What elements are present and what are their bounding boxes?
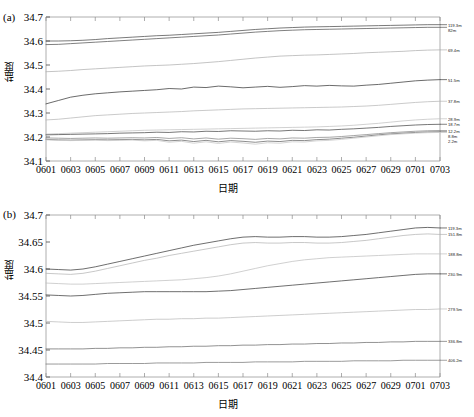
y-tick-label: 34.6 — [24, 263, 43, 275]
x-tick-label: 0615 — [208, 164, 228, 175]
x-tick-label: 0703 — [430, 380, 450, 391]
series-line — [46, 360, 440, 364]
series-depth-label: 2.2m — [448, 138, 457, 143]
y-tick-label: 34.55 — [18, 290, 43, 302]
series-depth-label: 151.8m — [448, 232, 462, 237]
x-tick-label: 0615 — [208, 380, 228, 391]
y-tick-label: 34.6 — [24, 35, 43, 47]
series-depth-label: 230.9m — [448, 271, 462, 276]
x-tick-label: 0609 — [135, 380, 155, 391]
x-tick-label: 0629 — [381, 164, 401, 175]
series-depth-label: 188.8m — [448, 251, 462, 256]
x-tick-label: 0703 — [430, 164, 450, 175]
series-line — [46, 80, 440, 104]
axis-frame — [46, 215, 440, 377]
series-depth-label: 119.3m — [448, 225, 462, 230]
panel-a-ylabel: 盐度 — [2, 62, 17, 82]
series-line — [46, 309, 440, 323]
series-depth-label: 406.2m — [448, 358, 462, 363]
figure-root: (a) 盐度 34.134.234.334.434.534.634.7 0601… — [0, 0, 474, 417]
x-tick-label: 0603 — [61, 164, 81, 175]
x-tick-label: 0605 — [85, 380, 105, 391]
x-tick-label: 0601 — [36, 164, 56, 175]
series-line — [46, 101, 440, 120]
series-depth-label: 28.9m — [448, 116, 460, 121]
x-tick-label: 0609 — [135, 164, 155, 175]
series-depth-label: 82m — [448, 27, 456, 32]
x-tick-label: 0623 — [307, 164, 327, 175]
y-tick-label: 34.2 — [24, 131, 43, 143]
series-depth-label: 69.4m — [448, 47, 460, 52]
x-tick-label: 0611 — [159, 380, 179, 391]
panel-b-xlabel: 日期 — [218, 396, 238, 411]
panel-a-xlabel: 日期 — [218, 180, 238, 195]
y-tick-label: 34.7 — [24, 209, 43, 221]
x-tick-label: 0625 — [332, 380, 352, 391]
x-tick-label: 0627 — [356, 164, 376, 175]
series-line — [46, 119, 440, 134]
x-tick-label: 0605 — [85, 164, 105, 175]
x-tick-label: 0629 — [381, 380, 401, 391]
series-depth-label: 336.8m — [448, 339, 462, 344]
y-tick-label: 34.5 — [24, 317, 43, 329]
x-tick-label: 0613 — [184, 164, 204, 175]
y-tick-label: 34.65 — [18, 236, 43, 248]
x-tick-label: 0601 — [36, 380, 56, 391]
y-tick-label: 34.45 — [18, 344, 43, 356]
x-tick-label: 0619 — [258, 164, 278, 175]
series-depth-label: 51.5m — [448, 77, 460, 82]
series-depth-label: 279.5m — [448, 306, 462, 311]
series-depth-label: 18.7m — [448, 122, 460, 127]
panel-a: (a) 盐度 34.134.234.334.434.534.634.7 0601… — [0, 0, 474, 200]
series-line — [46, 274, 440, 296]
panel-a-tag: (a) — [3, 11, 15, 23]
panel-b-ylabel: 盐度 — [2, 260, 17, 280]
x-tick-label: 0623 — [307, 380, 327, 391]
x-tick-label: 0607 — [110, 380, 130, 391]
y-tick-label: 34.3 — [24, 107, 43, 119]
x-tick-label: 0603 — [61, 380, 81, 391]
panel-b: (b) 盐度 34.434.4534.534.5534.634.6534.7 0… — [0, 200, 474, 417]
x-tick-label: 0701 — [405, 380, 425, 391]
x-tick-label: 0613 — [184, 380, 204, 391]
x-tick-label: 0701 — [405, 164, 425, 175]
series-line — [46, 27, 440, 44]
x-tick-label: 0625 — [332, 164, 352, 175]
series-line — [46, 50, 440, 72]
x-tick-label: 0617 — [233, 164, 253, 175]
series-line — [46, 227, 440, 270]
x-tick-label: 0619 — [258, 380, 278, 391]
x-tick-label: 0617 — [233, 380, 253, 391]
series-line — [46, 234, 440, 275]
x-tick-label: 0627 — [356, 380, 376, 391]
series-line — [46, 341, 440, 349]
series-depth-label: 37.8m — [448, 99, 460, 104]
x-tick-label: 0607 — [110, 164, 130, 175]
y-tick-label: 34.7 — [24, 11, 43, 23]
y-tick-label: 34.5 — [24, 59, 43, 71]
panel-b-tag: (b) — [3, 208, 16, 220]
x-tick-label: 0621 — [282, 164, 302, 175]
x-tick-label: 0621 — [282, 380, 302, 391]
y-tick-label: 34.4 — [24, 83, 43, 95]
x-tick-label: 0611 — [159, 164, 179, 175]
